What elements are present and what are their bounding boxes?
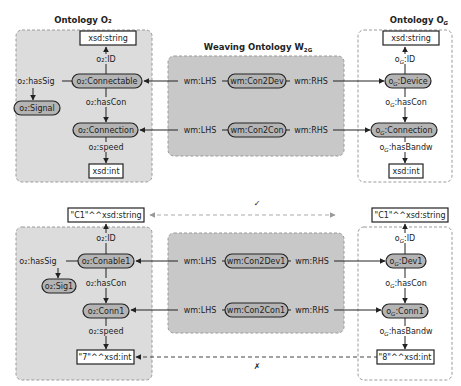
node-label: wm:Con2Dev bbox=[230, 77, 284, 86]
literal-label: "C1"^^xsd:string bbox=[374, 211, 445, 220]
edge-label: o₂:speed bbox=[89, 143, 124, 152]
check-icon: ✓ bbox=[254, 199, 261, 208]
edge-label: o₂:ID bbox=[96, 234, 115, 243]
edge-label: wm:RHS bbox=[294, 77, 328, 86]
edge-label: oG:ID bbox=[395, 234, 415, 244]
edge-label: oG:ID bbox=[395, 55, 415, 65]
node-label: o₂:Signal bbox=[19, 104, 54, 113]
node-label: wm:Con2Con1 bbox=[227, 306, 285, 315]
title-ontology-o2: Ontology O₂ bbox=[54, 15, 112, 25]
edge-label: o₂:hasCon bbox=[86, 98, 127, 107]
panel-weave-top bbox=[168, 56, 344, 156]
title-ontology-og: Ontology OG bbox=[390, 15, 449, 26]
edge-label: wm:LHS bbox=[184, 257, 217, 266]
panel-weave-bottom bbox=[168, 233, 344, 333]
literal-label: xsd:int bbox=[92, 167, 119, 176]
edge-label: o₂:hasSig bbox=[19, 257, 56, 266]
node-label: oG:Connection bbox=[375, 126, 432, 136]
edge-label: wm:RHS bbox=[294, 126, 328, 135]
title-weaving-ontology: Weaving Ontology W2G bbox=[204, 42, 313, 53]
node-label: o₂:Connectable bbox=[77, 77, 138, 86]
edge-label: o₂:ID bbox=[96, 55, 115, 64]
node-label: wm:Con2Con bbox=[230, 126, 283, 135]
node-label: wm:Con2Dev1 bbox=[227, 257, 286, 266]
literal-label: xsd:string bbox=[88, 34, 128, 43]
literal-label: xsd:string bbox=[391, 34, 431, 43]
edge-label: wm:RHS bbox=[295, 257, 329, 266]
cross-icon: ✗ bbox=[254, 362, 261, 371]
edge-label: wm:LHS bbox=[184, 306, 217, 315]
node-label: o₂:Conn1 bbox=[88, 307, 125, 316]
node-label: o₂:Sig1 bbox=[45, 282, 73, 291]
weaving-diagram: Ontology O₂ Weaving Ontology W2G Ontolog… bbox=[0, 0, 461, 386]
edge-label: o₂:hasSig bbox=[17, 77, 54, 86]
edge-label: wm:RHS bbox=[295, 306, 329, 315]
node-label: o₂:Connection bbox=[78, 126, 134, 135]
edge-label: wm:LHS bbox=[184, 77, 217, 86]
literal-label: "7"^^xsd:int bbox=[79, 353, 132, 362]
node-label: o₂:Conable1 bbox=[82, 257, 131, 266]
edge-label: wm:LHS bbox=[184, 126, 217, 135]
literal-label: xsd:int bbox=[392, 167, 419, 176]
literal-label: "8"^^xsd:int bbox=[379, 353, 432, 362]
edge-label: o₂:speed bbox=[89, 327, 124, 336]
literal-label: "C1"^^xsd:string bbox=[70, 211, 141, 220]
edge-label: o₂:hasCon bbox=[86, 279, 127, 288]
